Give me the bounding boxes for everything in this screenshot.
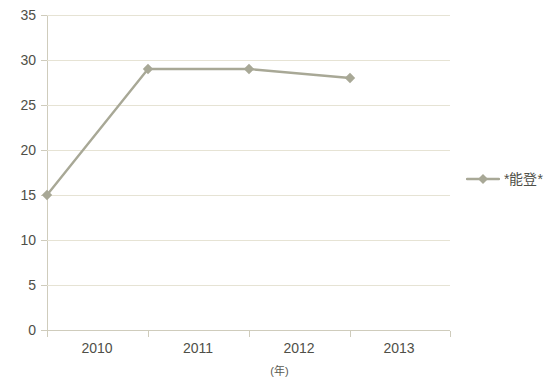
line-chart: 35 30 25 20 15 10 5 0 2010 2011 2012 201…	[0, 0, 559, 391]
x-tick-label: 2013	[364, 341, 434, 355]
x-tick-label: 2010	[62, 341, 132, 355]
series-markers	[42, 64, 355, 200]
series-line	[47, 69, 350, 195]
series-noto	[47, 15, 450, 330]
x-tick-mark	[148, 331, 149, 337]
plot-area	[47, 15, 450, 330]
chart-legend: *能登*	[466, 172, 543, 186]
x-axis-title: (年)	[0, 362, 559, 378]
data-point-marker	[345, 73, 355, 83]
legend-marker-icon	[466, 172, 500, 186]
legend-label: *能登*	[504, 172, 543, 186]
y-tick-label: 15	[6, 188, 36, 202]
x-tick-mark	[450, 331, 451, 337]
y-tick-label: 25	[6, 98, 36, 112]
data-point-marker	[244, 64, 254, 74]
x-tick-label: 2011	[163, 341, 233, 355]
y-tick-label: 30	[6, 53, 36, 67]
y-tick-label: 35	[6, 8, 36, 22]
y-tick-label: 20	[6, 143, 36, 157]
x-tick-mark	[47, 331, 48, 337]
x-tick-label: 2012	[264, 341, 334, 355]
x-tick-mark	[350, 331, 351, 337]
y-tick-label: 10	[6, 233, 36, 247]
y-tick-label: 5	[6, 278, 36, 292]
y-tick-label: 0	[6, 323, 36, 337]
x-tick-mark	[249, 331, 250, 337]
